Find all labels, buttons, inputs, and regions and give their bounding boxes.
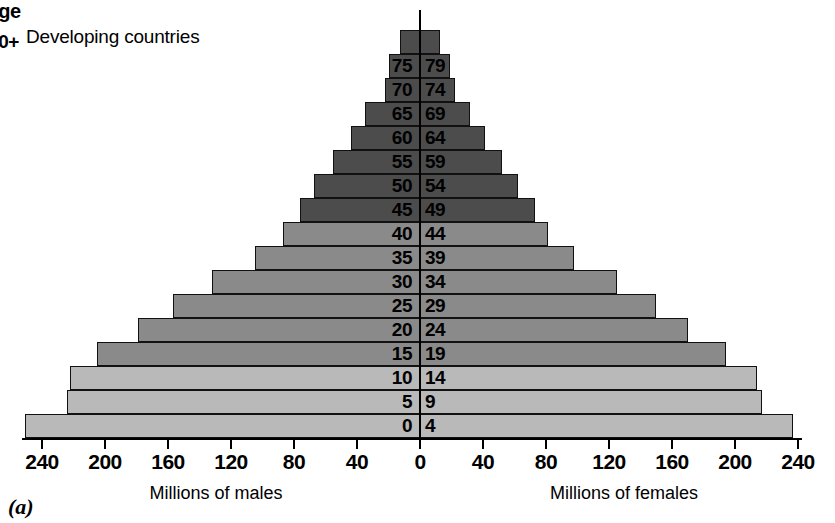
age-label-0-4-upper: 4: [421, 414, 435, 438]
bar-female-10-14: [420, 366, 757, 390]
x-tick-label-160: 160: [151, 450, 185, 474]
age-label-75-79-upper: 79: [421, 54, 445, 78]
x-tick-160: [671, 440, 673, 449]
age-label-60-64-lower: 60: [392, 126, 416, 150]
bar-male-25-29: [173, 294, 420, 318]
bar-male-5-9: [67, 390, 420, 414]
bar-female-30-34: [420, 270, 617, 294]
age-label-15-19-lower: 15: [392, 342, 416, 366]
x-tick-label-80: 80: [535, 450, 557, 474]
pyramid-row: 1014: [0, 366, 835, 390]
x-tick-label-240: 240: [781, 450, 815, 474]
age-label-10-14-upper: 14: [421, 366, 445, 390]
age-label-55-59-lower: 55: [392, 150, 416, 174]
x-tick-label-200: 200: [88, 450, 122, 474]
age-label-50-54-lower: 50: [392, 174, 416, 198]
x-tick-200: [104, 440, 106, 449]
age-label-25-29-lower: 25: [392, 294, 416, 318]
age-label-30-34-upper: 34: [421, 270, 445, 294]
age-label-0-4-lower: 0: [402, 414, 416, 438]
bar-female-0-4: [420, 414, 793, 438]
x-tick-40: [482, 440, 484, 449]
x-tick-240: [41, 440, 43, 449]
left-axis-title: Millions of males: [149, 483, 282, 504]
age-label-70-74-upper: 74: [421, 78, 445, 102]
x-tick-label-160: 160: [655, 450, 689, 474]
age-label-20-24-upper: 24: [421, 318, 445, 342]
age-label-70-74-lower: 70: [392, 78, 416, 102]
age-label-35-39-lower: 35: [392, 246, 416, 270]
figure-caption: (a): [8, 494, 34, 520]
pyramid-row: 04: [0, 414, 835, 438]
x-tick-40: [356, 440, 358, 449]
x-tick-label-80: 80: [283, 450, 305, 474]
age-label-25-29-upper: 29: [421, 294, 445, 318]
pyramid-row: 80+: [0, 30, 835, 54]
age-label-5-9-lower: 5: [402, 390, 416, 414]
x-tick-80: [293, 440, 295, 449]
age-label-5-9-upper: 9: [421, 390, 435, 414]
pyramid-row: 2529: [0, 294, 835, 318]
bar-female-20-24: [420, 318, 688, 342]
pyramid-row: 1519: [0, 342, 835, 366]
pyramid-row: 3539: [0, 246, 835, 270]
pyramid-row: 3034: [0, 270, 835, 294]
x-tick-240: [797, 440, 799, 449]
x-tick-label-240: 240: [25, 450, 59, 474]
x-tick-80: [545, 440, 547, 449]
age-label-15-19-upper: 19: [421, 342, 445, 366]
pyramid-row: 5054: [0, 174, 835, 198]
bar-male-15-19: [97, 342, 420, 366]
x-tick-label-40: 40: [346, 450, 368, 474]
age-label-10-14-lower: 10: [392, 366, 416, 390]
age-label-65-69-upper: 69: [421, 102, 445, 126]
pyramid-row: 7074: [0, 78, 835, 102]
pyramid-row: 6569: [0, 102, 835, 126]
age-label-30-34-lower: 30: [392, 270, 416, 294]
age-label-35-39-upper: 39: [421, 246, 445, 270]
bar-male-10-14: [70, 366, 420, 390]
age-label-75-79-lower: 75: [392, 54, 416, 78]
age-label-50-54-upper: 54: [421, 174, 445, 198]
bar-male-30-34: [212, 270, 420, 294]
x-tick-200: [734, 440, 736, 449]
age-label-40-44-upper: 44: [421, 222, 445, 246]
age-label-55-59-upper: 59: [421, 150, 445, 174]
x-tick-0: [419, 440, 421, 449]
bar-female-5-9: [420, 390, 762, 414]
pyramid-row: 4044: [0, 222, 835, 246]
age-label-20-24-lower: 20: [392, 318, 416, 342]
x-tick-160: [167, 440, 169, 449]
pyramid-row: 59: [0, 390, 835, 414]
x-tick-label-120: 120: [214, 450, 248, 474]
pyramid-row: 2024: [0, 318, 835, 342]
pyramid-row: 7579: [0, 54, 835, 78]
x-tick-120: [608, 440, 610, 449]
age-label-40-44-lower: 40: [392, 222, 416, 246]
age-label-45-49-upper: 49: [421, 198, 445, 222]
age-label-45-49-lower: 45: [392, 198, 416, 222]
bar-female-15-19: [420, 342, 726, 366]
pyramid-row: 5559: [0, 150, 835, 174]
age-label-65-69-lower: 65: [392, 102, 416, 126]
x-tick-label-120: 120: [592, 450, 626, 474]
x-tick-120: [230, 440, 232, 449]
pyramid-row: 4549: [0, 198, 835, 222]
x-tick-label-200: 200: [718, 450, 752, 474]
x-tick-label-40: 40: [472, 450, 494, 474]
x-tick-label-0: 0: [414, 450, 425, 474]
pyramid-row: 6064: [0, 126, 835, 150]
bar-male-20-24: [138, 318, 420, 342]
age-label-60-64-upper: 64: [421, 126, 445, 150]
pyramid-plot-area: 0459101415192024252930343539404445495054…: [0, 0, 835, 440]
right-axis-title: Millions of females: [550, 483, 698, 504]
age-label-80+: 80+: [0, 30, 835, 54]
bar-female-25-29: [420, 294, 656, 318]
x-axis-line: [22, 438, 802, 440]
bar-male-0-4: [25, 414, 420, 438]
